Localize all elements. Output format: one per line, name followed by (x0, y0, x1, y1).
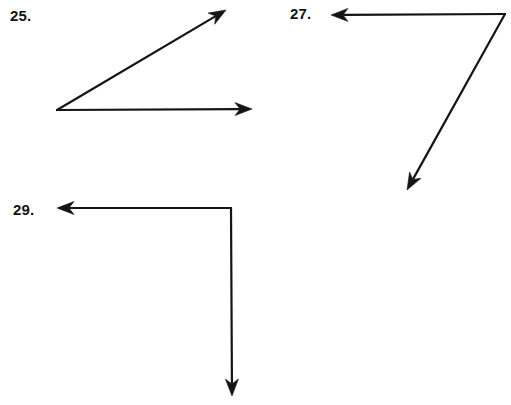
ray-25-horizontal-arrowhead (235, 103, 252, 116)
figure-label-25: 25. (10, 8, 31, 23)
figure-label-29: 29. (13, 202, 34, 217)
ray-25-horizontal-shaft (57, 109, 239, 110)
worksheet-canvas: 25. 27. 29. (0, 0, 511, 405)
ray-25-upper-arrowhead (208, 10, 226, 24)
ray-27-descending-arrowhead (407, 172, 421, 190)
ray-27-descending-shaft (413, 14, 505, 179)
figure-29 (57, 202, 238, 397)
figure-27 (331, 8, 505, 190)
ray-29-vertical-shaft (231, 208, 232, 383)
figure-label-27: 27. (290, 6, 311, 21)
ray-27-horizontal-shaft (344, 14, 505, 15)
ray-29-horizontal-arrowhead (57, 202, 74, 215)
ray-29-vertical-arrowhead (225, 379, 238, 396)
figure-25 (57, 10, 252, 116)
angle-diagram-layer (0, 0, 511, 405)
ray-25-upper-shaft (57, 17, 215, 110)
ray-27-horizontal-arrowhead (331, 8, 348, 21)
